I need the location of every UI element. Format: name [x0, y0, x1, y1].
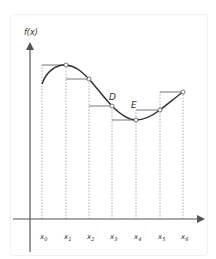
- tick-x3: x3: [109, 233, 117, 242]
- tick-x5: x5: [157, 233, 165, 242]
- point-x2: [87, 77, 91, 81]
- tick-x0: x0: [39, 233, 47, 242]
- function-diagram: f(x) D E x0 x1 x2 x3 x4 x5 x6: [0, 0, 216, 259]
- tick-x4: x4: [133, 233, 141, 242]
- y-axis-label: f(x): [24, 28, 38, 37]
- point-label-d: D: [109, 92, 116, 102]
- x-axis-arrow-icon: [197, 215, 205, 223]
- dotted-guides: [42, 65, 183, 219]
- point-d: [110, 104, 114, 108]
- point-x6: [181, 90, 185, 94]
- y-axis-arrow-icon: [26, 42, 34, 50]
- point-e: [134, 118, 138, 122]
- point-x5: [158, 108, 162, 112]
- tick-x2: x2: [86, 233, 94, 242]
- tick-x6: x6: [180, 233, 188, 242]
- x-tick-labels: x0 x1 x2 x3 x4 x5 x6: [39, 233, 188, 242]
- point-label-e: E: [131, 100, 137, 110]
- axes: [13, 48, 199, 252]
- tick-x1: x1: [63, 233, 71, 242]
- point-x1: [64, 63, 68, 67]
